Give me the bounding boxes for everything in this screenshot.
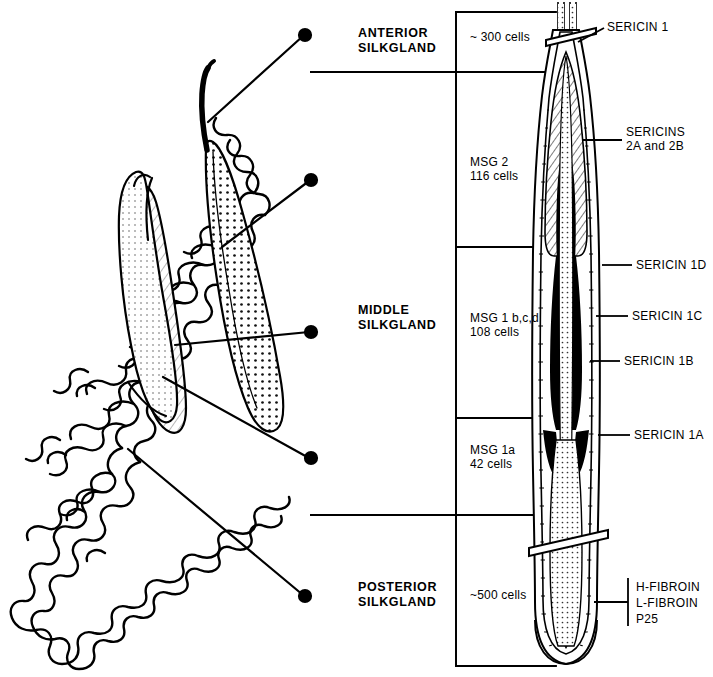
- product-label-p25: P25: [636, 612, 658, 626]
- product-label-sericin-1d: SERICIN 1D: [636, 258, 706, 272]
- product-label-sericin-1c: SERICIN 1C: [632, 309, 702, 323]
- product-label-sericin-1b: SERICIN 1B: [624, 354, 694, 368]
- product-label-sericin-1a: SERICIN 1A: [634, 428, 704, 442]
- product-label-sericins-2a-2b: SERICINS 2A and 2B: [626, 125, 685, 153]
- silkgland-section-drawing: [529, 2, 608, 664]
- cell-count-msg1bcd: MSG 1 b,c,d 108 cells: [470, 311, 539, 339]
- cell-count-anterior: ~ 300 cells: [470, 30, 530, 44]
- product-label-l-fibroin: L-FIBROIN: [636, 596, 698, 610]
- product-label-h-fibroin: H-FIBROIN: [636, 580, 700, 594]
- figure-canvas: ANTERIOR SILKGLAND MIDDLE SILKGLAND POST…: [0, 0, 713, 677]
- region-label-posterior: POSTERIOR SILKGLAND: [358, 580, 437, 610]
- cell-count-msg1a: MSG 1a 42 cells: [470, 443, 515, 471]
- region-label-anterior: ANTERIOR SILKGLAND: [358, 26, 436, 56]
- product-label-sericin-1: SERICIN 1: [607, 20, 668, 34]
- cell-count-posterior: ~500 cells: [470, 588, 526, 602]
- diagram-artwork: [0, 0, 713, 677]
- region-label-middle: MIDDLE SILKGLAND: [358, 303, 436, 333]
- cell-count-msg2: MSG 2 116 cells: [470, 155, 518, 183]
